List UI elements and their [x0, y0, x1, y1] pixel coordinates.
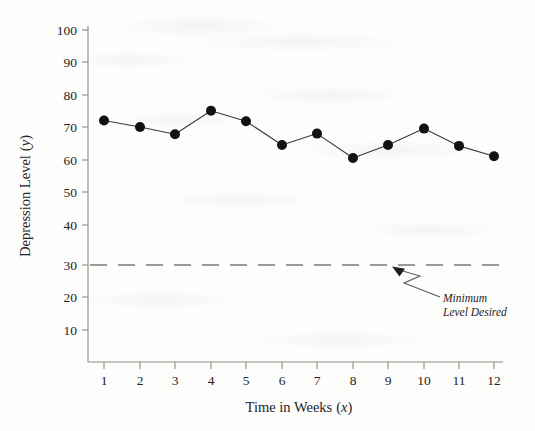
data-point-marker: [241, 116, 251, 126]
x-axis-tick-labels: 1 2 3 4 5 6 7 8 9 10 11 12: [101, 373, 501, 388]
y-tick-label: 80: [64, 88, 78, 103]
chart-canvas: 100 90 80 70 60 50 40 30 20 10: [0, 0, 535, 431]
x-axis-title: Time in Weeks(x): [246, 399, 353, 416]
x-tick-label: 6: [279, 373, 286, 388]
annotation-minimum-level: Minimum Level Desired: [442, 292, 507, 318]
x-tick-label: 4: [208, 373, 215, 388]
chart-page: 100 90 80 70 60 50 40 30 20 10: [0, 0, 535, 431]
data-point-marker: [206, 106, 216, 116]
y-tick-label: 60: [64, 153, 78, 168]
y-tick-label: 90: [64, 55, 78, 70]
y-tick-label: 20: [64, 290, 78, 305]
y-tick-label: 10: [64, 323, 78, 338]
annotation-arrowhead-icon: [392, 267, 405, 277]
data-point-marker: [135, 122, 145, 132]
y-axis-tick-labels: 100 90 80 70 60 50 40 30 20 10: [57, 23, 78, 338]
data-point-marker: [277, 140, 287, 150]
data-point-marker: [99, 116, 109, 126]
x-axis-ticks: [104, 362, 494, 369]
data-point-marker: [383, 140, 393, 150]
data-markers: [99, 106, 499, 163]
data-point-marker: [489, 151, 499, 161]
y-tick-label: 30: [64, 258, 78, 273]
data-point-marker: [312, 129, 322, 139]
annotation-leader: [392, 267, 440, 298]
data-point-marker: [454, 141, 464, 151]
x-tick-label: 8: [350, 373, 357, 388]
annotation-line-1: Minimum: [442, 292, 487, 304]
line-chart: 100 90 80 70 60 50 40 30 20 10: [0, 0, 535, 431]
data-series-line: [104, 111, 494, 158]
x-tick-label: 12: [487, 373, 501, 388]
y-tick-label: 100: [57, 23, 78, 38]
annotation-line-2: Level Desired: [442, 306, 507, 318]
annotation-arrow-path: [396, 269, 440, 297]
x-tick-label: 9: [385, 373, 392, 388]
data-point-marker: [348, 153, 358, 163]
x-tick-label: 1: [101, 373, 108, 388]
x-tick-label: 11: [453, 373, 466, 388]
x-tick-label: 7: [314, 373, 321, 388]
y-tick-label: 50: [64, 185, 78, 200]
data-point-marker: [170, 129, 180, 139]
y-axis-title-text: Depression Level: [17, 155, 33, 257]
y-axis-title: Depression Level(y): [17, 135, 34, 257]
y-tick-label: 40: [64, 218, 78, 233]
x-tick-label: 3: [172, 373, 179, 388]
y-tick-label: 70: [64, 120, 78, 135]
x-tick-label: 10: [417, 373, 431, 388]
y-axis-ticks: [82, 30, 88, 330]
x-tick-label: 5: [243, 373, 250, 388]
data-point-marker: [419, 124, 429, 134]
x-tick-label: 2: [137, 373, 144, 388]
x-axis-title-text: Time in Weeks: [246, 399, 333, 415]
